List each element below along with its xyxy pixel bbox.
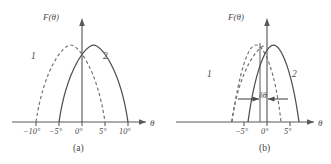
curve-label-2-b: 2	[292, 70, 297, 80]
y-axis-arrow-b	[264, 18, 270, 26]
x-axis-label-a: θ	[150, 119, 154, 128]
x-tick-label--10-a: −10°	[23, 128, 40, 136]
delta-theta-label-b: δθ	[259, 92, 267, 100]
x-axis-arrow-a	[139, 119, 146, 125]
y-axis-label-b: F(θ)	[228, 13, 244, 22]
y-axis-label-a: F(θ)	[43, 13, 59, 22]
curve-2-b	[248, 45, 299, 122]
curve-1-b	[232, 45, 281, 122]
x-tick-label--5-b: −5°	[235, 128, 248, 136]
curve-1-a	[36, 45, 105, 122]
curve-label-1-b: 1	[207, 70, 212, 80]
x-tick-label--5-a: −5°	[49, 128, 62, 136]
panel-caption-b: (b)	[259, 144, 270, 154]
curve-1-b-left	[232, 45, 267, 122]
delta-theta-arrowhead-right-b	[268, 96, 275, 101]
x-tick-label-5-b: 5°	[284, 128, 291, 136]
curve-label-2-a: 2	[103, 52, 108, 62]
y-axis-arrow-a	[79, 18, 85, 26]
panel-b-plot	[166, 0, 331, 164]
x-tick-label-0-b: 0°	[261, 128, 268, 136]
curve-2-a	[59, 45, 128, 122]
panel-a: F(θ) θ −10° −5° 0° 5° 10° 1 2 (a)	[0, 0, 165, 164]
panel-a-plot	[0, 0, 165, 164]
panel-caption-a: (a)	[73, 144, 84, 154]
figure-root: F(θ) θ −10° −5° 0° 5° 10° 1 2 (a)	[0, 0, 331, 164]
x-tick-label-10-a: 10°	[119, 128, 131, 136]
x-tick-label-0-a: 0°	[75, 128, 82, 136]
x-tick-label-5-a: 5°	[99, 128, 106, 136]
x-axis-arrow-b	[307, 119, 314, 125]
x-axis-label-b: θ	[318, 119, 322, 128]
panel-b: F(θ) θ −5° 0° 5° 1 2 δθ (b)	[166, 0, 331, 164]
curve-label-1-a: 1	[31, 52, 36, 62]
